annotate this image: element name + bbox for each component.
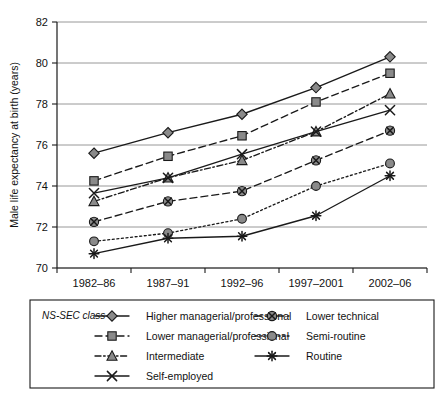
marker-circle [312, 182, 321, 191]
x-tick-label-2: 1992–96 [221, 277, 264, 289]
x-tick-label-4: 2002–06 [369, 277, 412, 289]
x-tick-label-1: 1987–91 [147, 277, 190, 289]
series-line-3 [94, 110, 390, 193]
marker-circle [238, 214, 247, 223]
marker-square [90, 177, 98, 185]
marker-square [108, 332, 116, 340]
y-tick-label-78: 78 [36, 98, 48, 110]
legend-label: Routine [306, 350, 342, 362]
marker-square [386, 69, 394, 77]
marker-circle [268, 332, 277, 341]
y-tick-label-76: 76 [36, 139, 48, 151]
y-axis-title: Male life expectancy at birth (years) [8, 62, 20, 228]
legend-entry[interactable]: Semi-routine [255, 330, 366, 342]
y-tick-label-72: 72 [36, 221, 48, 233]
legend-entry[interactable]: Routine [255, 350, 342, 362]
series-1 [90, 69, 394, 185]
marker-square [312, 98, 320, 106]
x-tick-label-3: 1997–2001 [288, 277, 343, 289]
marker-diamond [89, 148, 99, 158]
y-tick-label-80: 80 [36, 57, 48, 69]
marker-diamond [163, 128, 173, 138]
marker-square [238, 132, 246, 140]
marker-square [164, 152, 172, 160]
x-tick-label-0: 1982–86 [73, 277, 116, 289]
marker-triangle [385, 89, 395, 98]
legend-label: Intermediate [146, 350, 205, 362]
series-line-4 [94, 131, 390, 222]
legend-entry[interactable]: Self-employed [95, 370, 213, 382]
y-tick-label-82: 82 [36, 16, 48, 28]
series-0 [89, 52, 395, 159]
legend-label: Lower technical [306, 310, 379, 322]
marker-diamond [107, 311, 117, 321]
chart-canvas: 707274767880821982–861987–911992–961997–… [0, 0, 438, 398]
marker-circle [386, 159, 395, 168]
legend-entry[interactable]: Lower technical [255, 310, 379, 322]
series-line-5 [94, 163, 390, 241]
marker-diamond [237, 109, 247, 119]
life-expectancy-line-chart: 707274767880821982–861987–911992–961997–… [0, 0, 438, 398]
legend-label: Self-employed [146, 370, 213, 382]
marker-triangle [237, 155, 247, 164]
y-tick-label-74: 74 [36, 180, 48, 192]
marker-diamond [385, 52, 395, 62]
marker-diamond [311, 82, 321, 92]
legend-entry[interactable]: Intermediate [95, 350, 205, 362]
legend-label: Semi-routine [306, 330, 366, 342]
marker-circle [90, 237, 99, 246]
y-tick-label-70: 70 [36, 262, 48, 274]
